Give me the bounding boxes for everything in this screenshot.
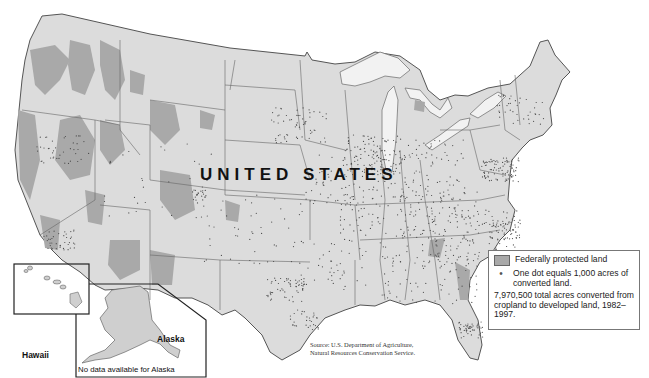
legend-protected-label: Federally protected land xyxy=(515,255,607,265)
dot-symbol-icon: • xyxy=(494,269,508,278)
legend-total-note: 7,970,500 total acres converted from cro… xyxy=(494,291,634,320)
legend-protected-row: Federally protected land xyxy=(494,255,634,266)
map-legend: Federally protected land • One dot equal… xyxy=(488,250,640,330)
hawaii-islands xyxy=(24,266,82,308)
source-line-1: Source: U.S. Department of Agriculture, xyxy=(310,341,415,349)
legend-dot-row: • One dot equals 1,000 acres of converte… xyxy=(494,269,634,288)
alaska-label: Alaska xyxy=(157,334,184,344)
source-line-2: Natural Resources Conservation Service. xyxy=(310,349,415,357)
alaska-shape xyxy=(82,286,180,363)
legend-dot-label: One dot equals 1,000 acres of converted … xyxy=(513,269,634,288)
protected-land-swatch xyxy=(494,255,510,266)
alaska-no-data-note: No data available for Alaska xyxy=(78,365,175,374)
source-citation: Source: U.S. Department of Agriculture, … xyxy=(310,341,415,357)
contiguous-us-landmass xyxy=(15,14,570,360)
country-label: UNITED STATES xyxy=(200,165,398,185)
hawaii-label: Hawaii xyxy=(22,350,49,360)
